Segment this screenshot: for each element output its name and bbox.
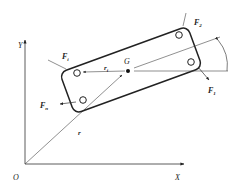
force-f2-line xyxy=(183,13,186,26)
point-1 xyxy=(188,59,195,66)
position-vector-r xyxy=(25,75,122,164)
angle-arc xyxy=(218,40,227,71)
relative-vector-label: ri xyxy=(104,64,109,73)
point-2 xyxy=(176,32,183,39)
force-fi-line xyxy=(48,60,66,69)
force-f1-label: F1 xyxy=(207,86,216,96)
point-n xyxy=(80,97,87,104)
y-axis-label: Y xyxy=(18,41,24,50)
origin-label: O xyxy=(13,173,19,182)
rigid-body-force-diagram: Y O X G r ri Fi F2 F1 Fn xyxy=(0,0,243,189)
body-axis-line xyxy=(134,37,220,68)
point-i xyxy=(74,70,81,77)
centroid-dot xyxy=(126,69,130,73)
force-fi-label: Fi xyxy=(61,52,69,62)
force-f1-arrow xyxy=(198,67,209,80)
force-fn-arrow xyxy=(60,102,76,104)
x-axis-label: X xyxy=(174,173,181,182)
position-vector-label: r xyxy=(78,129,81,137)
force-f2-label: F2 xyxy=(193,18,202,28)
centroid-label: G xyxy=(124,57,130,66)
force-fn-label: Fn xyxy=(39,101,48,111)
